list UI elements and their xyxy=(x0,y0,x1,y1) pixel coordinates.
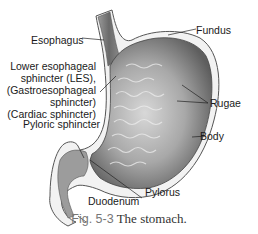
label-esophagus: Esophagus xyxy=(31,34,84,46)
label-les: Lower esophageal sphincter (LES), (Gastr… xyxy=(7,60,96,120)
figure-caption: Fig. 5-3 The stomach. xyxy=(0,211,258,227)
label-pylorus: Pylorus xyxy=(145,186,180,198)
label-les-line4: sphincter) xyxy=(7,96,96,108)
label-pyloric-sphincter: Pyloric sphincter xyxy=(23,118,100,130)
label-fundus: Fundus xyxy=(196,24,231,36)
label-les-line1: Lower esophageal xyxy=(7,60,96,72)
label-les-line2: sphincter (LES), xyxy=(7,72,96,84)
label-rugae: Rugae xyxy=(210,97,241,109)
label-duodenum: Duodenum xyxy=(88,195,139,207)
figure-number: Fig. 5-3 xyxy=(71,212,113,226)
label-body: Body xyxy=(200,130,224,142)
figure-caption-text: The stomach. xyxy=(117,211,187,226)
label-les-line3: (Gastroesophageal xyxy=(7,84,96,96)
